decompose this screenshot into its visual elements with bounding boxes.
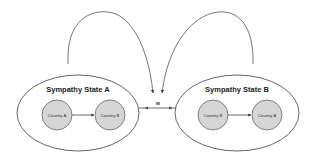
- sympathy-state-a: Sympathy State A Country A Country B: [17, 75, 139, 151]
- diagram-canvas: Sympathy State A Country A Country B Sym…: [0, 0, 314, 156]
- node-state-a-country-a: Country A: [42, 100, 72, 130]
- node-label: Country A: [258, 113, 277, 118]
- state-b-title: Sympathy State B: [205, 85, 269, 94]
- state-a-title: Sympathy State A: [46, 85, 110, 94]
- node-label: Country B: [204, 113, 223, 118]
- node-label: Country B: [101, 113, 120, 118]
- node-state-a-country-b: Country B: [95, 100, 125, 130]
- transition-label: w: [155, 100, 160, 106]
- node-state-b-country-a: Country A: [252, 100, 282, 130]
- sympathy-state-b: Sympathy State B Country B Country A: [175, 75, 299, 151]
- node-state-b-country-b: Country B: [198, 100, 228, 130]
- node-label: Country A: [48, 113, 67, 118]
